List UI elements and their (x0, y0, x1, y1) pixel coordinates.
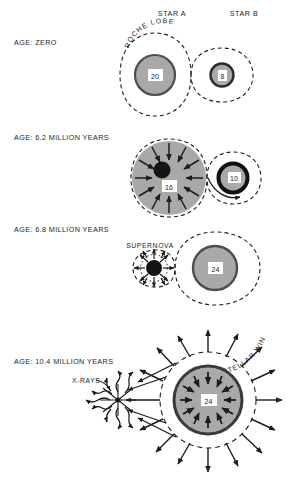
panel-age-6-2-age-label: AGE: 6.2 MILLION YEARS (14, 133, 109, 142)
panel-age-6-8-age-label: AGE: 6.8 MILLION YEARS (14, 225, 109, 234)
supernova-label: SUPERNOVA (126, 242, 174, 249)
panel2-star-a: 16 (132, 141, 206, 215)
panel3-star-b-mass: 24 (211, 266, 219, 273)
binary-star-evolution-figure: STAR A STAR B AGE: ZERO 20 8 ROCHE LOBE … (0, 0, 292, 494)
panel4-star-b-mass: 24 (204, 398, 212, 405)
panel1-star-b-mass: 8 (220, 73, 224, 80)
panel-age-zero-age-label: AGE: ZERO (14, 38, 57, 47)
panel3-star-b: 24 (193, 246, 237, 290)
panel1-star-b: 8 (211, 64, 234, 87)
header-star-a-label: STAR A (158, 9, 186, 18)
panel1-star-a-mass: 20 (151, 73, 159, 80)
panel1-star-a: 20 (135, 55, 175, 95)
panel-age-10-4-age-label: AGE: 10.4 MILLION YEARS (14, 357, 113, 366)
panel2-star-b-mass: 10 (230, 175, 238, 182)
header-star-b-label: STAR B (230, 9, 259, 18)
figure-canvas: STAR A STAR B AGE: ZERO 20 8 ROCHE LOBE … (0, 0, 292, 494)
panel4-star-b: 24 (174, 366, 242, 434)
panel2-star-a-mass: 16 (165, 184, 173, 191)
